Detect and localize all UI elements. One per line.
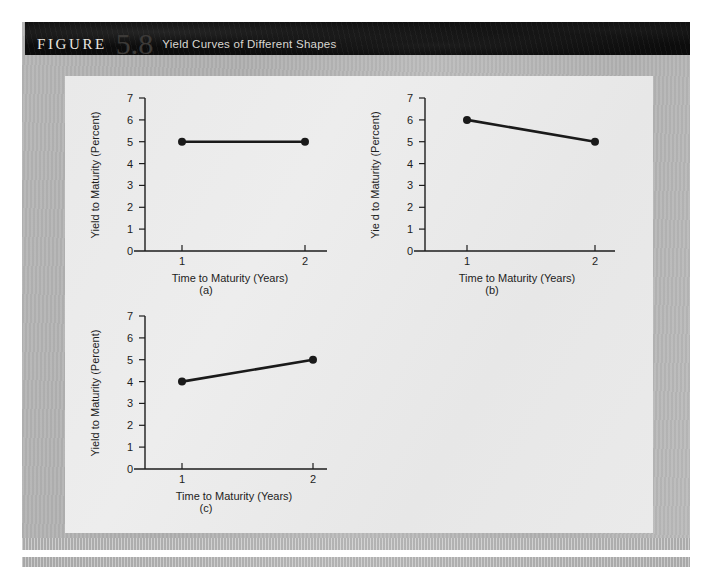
chart-c-xtick-1: 1 xyxy=(179,473,185,485)
chart-c-ytick-3: 3 xyxy=(127,397,133,409)
chart-a-point-2 xyxy=(301,138,309,146)
bottom-band-upper xyxy=(22,538,690,550)
chart-b-ytick-4: 4 xyxy=(407,158,413,170)
chart-c-ytick-4: 4 xyxy=(127,376,133,388)
bottom-band-gap xyxy=(0,550,711,557)
chart-a-ytick-0: 0 xyxy=(127,245,133,257)
chart-c-x-ticks: 1 2 xyxy=(179,463,316,485)
chart-a-ytick-5: 5 xyxy=(127,136,133,148)
chart-a-x-ticks: 1 2 xyxy=(179,245,308,267)
chart-c-ytick-5: 5 xyxy=(127,354,133,366)
bottom-band-lower xyxy=(22,557,690,567)
chart-a-ytick-6: 6 xyxy=(127,114,133,126)
figure-title: Yield Curves of Different Shapes xyxy=(162,38,336,50)
chart-b-ytick-0: 0 xyxy=(407,245,413,257)
chart-b-point-1 xyxy=(463,116,471,124)
chart-b-series xyxy=(463,116,599,146)
chart-c-ylabel: Yield to Maturity (Percent) xyxy=(89,330,101,457)
figure-panel: 7 6 5 4 3 2 1 0 1 2 xyxy=(65,76,653,533)
chart-b-caption: (b) xyxy=(357,284,627,296)
chart-b-point-2 xyxy=(591,138,599,146)
chart-b-ytick-2: 2 xyxy=(407,201,413,213)
chart-b-ytick-7: 7 xyxy=(407,92,413,104)
figure-word-label: FIGURE xyxy=(37,36,107,53)
chart-c: 7 6 5 4 3 2 1 0 1 2 xyxy=(77,304,335,519)
chart-b-ylabel: Yie d to Maturity (Percent) xyxy=(369,111,381,238)
chart-c-ytick-2: 2 xyxy=(127,419,133,431)
chart-b-xtick-1: 1 xyxy=(464,255,470,267)
chart-c-ytick-1: 1 xyxy=(127,441,133,453)
chart-a-point-1 xyxy=(178,138,186,146)
chart-c-y-ticks: 7 6 5 4 3 2 1 0 xyxy=(127,310,145,475)
chart-b-x-ticks: 1 2 xyxy=(464,245,598,267)
chart-b-ytick-3: 3 xyxy=(407,179,413,191)
chart-a-xtick-1: 1 xyxy=(179,255,185,267)
chart-b-y-ticks: 7 6 5 4 3 2 1 0 xyxy=(407,92,425,257)
chart-c-ytick-7: 7 xyxy=(127,310,133,322)
chart-c-point-2 xyxy=(309,356,317,364)
chart-a-svg: 7 6 5 4 3 2 1 0 1 2 xyxy=(77,86,335,286)
chart-a-ytick-4: 4 xyxy=(127,158,133,170)
chart-a-ytick-7: 7 xyxy=(127,92,133,104)
figure-number-label: 5.8 xyxy=(116,29,154,56)
chart-b-ytick-6: 6 xyxy=(407,114,413,126)
chart-c-caption: (c) xyxy=(77,502,335,514)
chart-c-svg: 7 6 5 4 3 2 1 0 1 2 xyxy=(77,304,335,504)
figure-page: FIGURE 5.8 Yield Curves of Different Sha… xyxy=(0,0,711,567)
chart-b-xlabel: Time to Maturity (Years) xyxy=(459,272,576,284)
chart-c-series xyxy=(178,356,317,386)
chart-c-line xyxy=(182,360,313,382)
chart-c-xtick-2: 2 xyxy=(310,473,316,485)
chart-a-series xyxy=(178,138,309,146)
chart-b-line xyxy=(467,120,595,142)
chart-a: 7 6 5 4 3 2 1 0 1 2 xyxy=(77,86,335,301)
chart-c-ytick-6: 6 xyxy=(127,332,133,344)
figure-header-bar: FIGURE 5.8 Yield Curves of Different Sha… xyxy=(25,22,690,55)
chart-a-ytick-2: 2 xyxy=(127,201,133,213)
chart-a-ytick-3: 3 xyxy=(127,179,133,191)
chart-a-y-ticks: 7 6 5 4 3 2 1 0 xyxy=(127,92,145,257)
chart-c-ytick-0: 0 xyxy=(127,463,133,475)
chart-b-ytick-5: 5 xyxy=(407,136,413,148)
chart-a-xlabel: Time to Maturity (Years) xyxy=(172,272,289,284)
chart-b-xtick-2: 2 xyxy=(592,255,598,267)
figure-header-inner: FIGURE 5.8 Yield Curves of Different Sha… xyxy=(25,24,336,54)
chart-a-ytick-1: 1 xyxy=(127,223,133,235)
chart-a-caption: (a) xyxy=(77,284,335,296)
chart-b-svg: 7 6 5 4 3 2 1 0 1 2 xyxy=(357,86,627,286)
chart-a-xtick-2: 2 xyxy=(302,255,308,267)
chart-c-xlabel: Time to Maturity (Years) xyxy=(176,490,293,502)
chart-a-ylabel: Yield to Maturity (Percent) xyxy=(89,112,101,239)
chart-b: 7 6 5 4 3 2 1 0 1 2 xyxy=(357,86,627,301)
chart-c-point-1 xyxy=(178,378,186,386)
chart-b-ytick-1: 1 xyxy=(407,223,413,235)
